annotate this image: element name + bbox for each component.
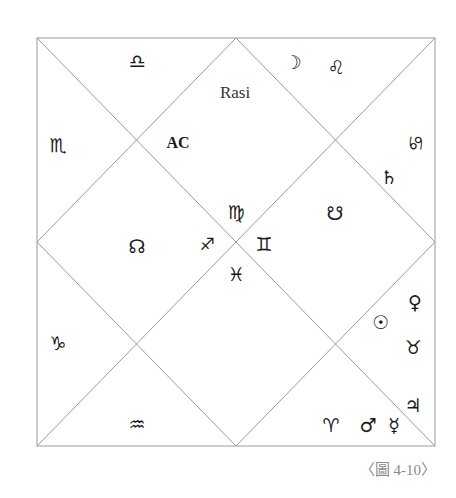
scorpio-icon: ♏ [49, 136, 66, 155]
sagittarius-icon: ♐ [199, 236, 214, 253]
venus-icon: ♀ [408, 293, 422, 312]
ascendant-label: AC [166, 134, 189, 152]
saturn-icon: ♄ [380, 168, 397, 187]
sun-icon: ☉ [372, 313, 389, 332]
mars-icon: ♂ [359, 416, 376, 435]
virgo-icon: ♍ [227, 203, 244, 222]
taurus-icon: ♉ [404, 338, 421, 357]
capricorn-icon: ♑ [49, 334, 66, 353]
cancer-icon: ♋ [406, 134, 425, 151]
south-node-icon: ☋ [327, 204, 344, 223]
jupiter-icon: ♃ [404, 396, 421, 415]
leo-icon: ♌ [327, 58, 344, 77]
aries-icon: ♈ [322, 416, 339, 435]
moon-icon: ☽ [284, 53, 301, 72]
libra-icon: ♎ [128, 52, 145, 71]
pisces-icon: ♓ [227, 265, 244, 284]
aquarius-icon: ♒ [128, 415, 145, 434]
figure-caption: 〈圖 4-10〉 [360, 458, 436, 479]
gemini-icon: ♊ [255, 235, 272, 254]
north-node-icon: ☊ [129, 237, 146, 256]
mercury-icon: ☿ [388, 416, 400, 435]
chart-title: Rasi [220, 83, 250, 103]
